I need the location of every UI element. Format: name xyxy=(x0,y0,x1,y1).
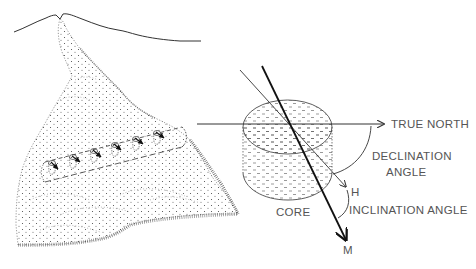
lava-flow xyxy=(16,19,238,245)
m-label: M xyxy=(343,245,353,257)
inclination-arc xyxy=(338,190,349,218)
core-label: CORE xyxy=(276,207,310,219)
diagram-stage: TRUE NORTH DECLINATION ANGLE H INCLINATI… xyxy=(0,0,476,269)
h-label: H xyxy=(351,187,360,199)
declination-arc xyxy=(333,126,371,174)
declination-angle-label-line1: DECLINATION xyxy=(372,151,452,163)
declination-angle-label-line2: ANGLE xyxy=(386,167,427,179)
diagram-canvas xyxy=(0,0,476,269)
inclination-angle-label: INCLINATION ANGLE xyxy=(349,205,468,217)
true-north-label: TRUE NORTH xyxy=(391,119,469,131)
volcano-skyline xyxy=(14,14,201,41)
